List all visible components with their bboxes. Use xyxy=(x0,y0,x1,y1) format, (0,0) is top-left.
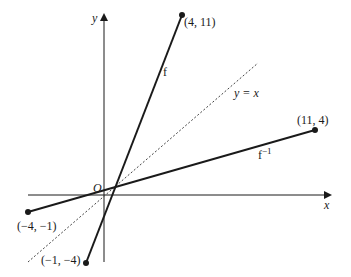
f-inverse-start-point-label: (−4, −1) xyxy=(17,219,57,233)
mirror-line-y-equals-x xyxy=(28,63,258,262)
x-axis xyxy=(28,191,332,199)
point-f-start xyxy=(83,260,89,266)
mirror-line-label: y = x xyxy=(233,86,259,100)
point-f-inverse-end xyxy=(312,127,318,133)
f-inverse-label: f−1 xyxy=(258,146,272,162)
inverse-function-diagram: y x O (4, 11) (−1, −4) f (11, 4) (−4, −1… xyxy=(0,0,351,277)
graph-f-inverse xyxy=(28,130,315,212)
f-start-point-label: (−1, −4) xyxy=(41,253,81,267)
f-label: f xyxy=(163,65,167,79)
x-axis-label: x xyxy=(323,198,330,212)
graph-f xyxy=(86,15,182,263)
y-axis-label: y xyxy=(91,11,98,25)
f-inverse-label-superscript: −1 xyxy=(262,146,272,156)
y-axis-arrow-icon xyxy=(100,13,108,21)
origin-label: O xyxy=(93,181,102,195)
f-end-point-label: (4, 11) xyxy=(184,15,216,29)
point-f-inverse-start xyxy=(25,209,31,215)
f-inverse-end-point-label: (11, 4) xyxy=(297,113,329,127)
